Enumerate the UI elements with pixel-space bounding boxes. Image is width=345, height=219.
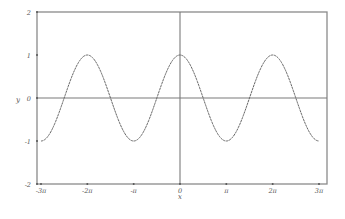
x-tick-label: -2π	[82, 187, 93, 195]
y-tick-label: 1	[27, 52, 31, 60]
x-tick-label: π	[223, 187, 229, 195]
chart-canvas: -3π-2π-π0π2π3π 210-1-2 x y	[0, 0, 345, 219]
x-tick-label: 3π	[315, 187, 324, 195]
y-axis-label: y	[15, 96, 21, 104]
y-tick-label: -1	[25, 138, 31, 146]
y-tick-label: 0	[27, 95, 31, 103]
cosine-plot: -3π-2π-π0π2π3π 210-1-2 x y	[0, 0, 345, 219]
y-axis-ticks: 210-1-2	[25, 9, 38, 189]
x-tick-label: -3π	[36, 187, 47, 195]
x-axis-label: x	[178, 193, 182, 201]
y-tick-label: -2	[25, 181, 31, 189]
x-tick-label: 2π	[267, 187, 277, 195]
x-tick-label: -π	[130, 187, 137, 195]
y-tick-label: 2	[26, 9, 31, 17]
zero-axes	[37, 12, 327, 184]
